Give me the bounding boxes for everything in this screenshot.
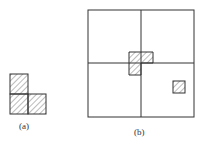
figure-a-shape [10,74,46,114]
diagram [0,0,200,149]
figure-b-center-region [129,52,153,75]
figure-b-small-region [173,81,185,93]
figure-b-label: (b) [134,127,145,137]
figure-a-label: (a) [19,121,29,131]
